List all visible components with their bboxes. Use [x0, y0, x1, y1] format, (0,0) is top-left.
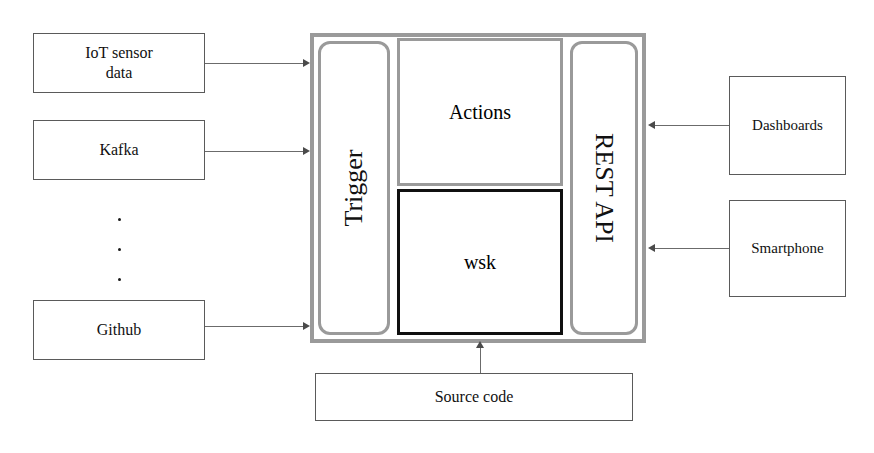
source-code-label: Source code [435, 387, 514, 407]
ellipsis-dot-3 [118, 278, 121, 281]
connector-source-code-to-wsk [480, 348, 481, 373]
panel-actions-label: Actions [449, 101, 511, 124]
connector-iot-to-trigger [205, 63, 305, 64]
connector-kafka-to-trigger [205, 151, 305, 152]
connector-smartphone-to-rest-api [655, 248, 729, 249]
source-label-iot-line1: IoT sensor [85, 43, 153, 63]
source-box-kafka[interactable]: Kafka [33, 120, 205, 180]
source-box-iot-sensor-data[interactable]: IoT sensor data [33, 33, 205, 93]
arrowhead-kafka-to-trigger [303, 147, 310, 155]
ellipsis-dot-1 [118, 218, 121, 221]
consumer-box-smartphone[interactable]: Smartphone [729, 200, 846, 297]
panel-actions[interactable]: Actions [397, 38, 563, 186]
arrowhead-smartphone-to-rest-api [648, 244, 655, 252]
arrowhead-iot-to-trigger [303, 59, 310, 67]
connector-dashboards-to-rest-api [655, 125, 729, 126]
arrowhead-github-to-trigger [303, 322, 310, 330]
panel-wsk[interactable]: wsk [397, 189, 563, 335]
arrowhead-dashboards-to-rest-api [648, 121, 655, 129]
diagram-canvas: IoT sensor data Kafka Github Trigger Act… [0, 0, 874, 453]
consumer-label-smartphone: Smartphone [751, 239, 824, 258]
arrowhead-source-code-to-wsk [476, 341, 484, 348]
connector-github-to-trigger [205, 326, 305, 327]
source-label-kafka: Kafka [99, 140, 138, 160]
source-code-box[interactable]: Source code [315, 373, 633, 421]
panel-trigger[interactable] [318, 41, 390, 335]
consumer-box-dashboards[interactable]: Dashboards [729, 76, 846, 175]
source-label-iot-line2: data [106, 63, 133, 83]
panel-wsk-label: wsk [464, 251, 496, 274]
source-box-github[interactable]: Github [33, 300, 205, 360]
consumer-label-dashboards: Dashboards [752, 116, 823, 135]
panel-rest-api[interactable] [570, 41, 638, 335]
ellipsis-dot-2 [118, 248, 121, 251]
source-label-github: Github [97, 320, 141, 340]
